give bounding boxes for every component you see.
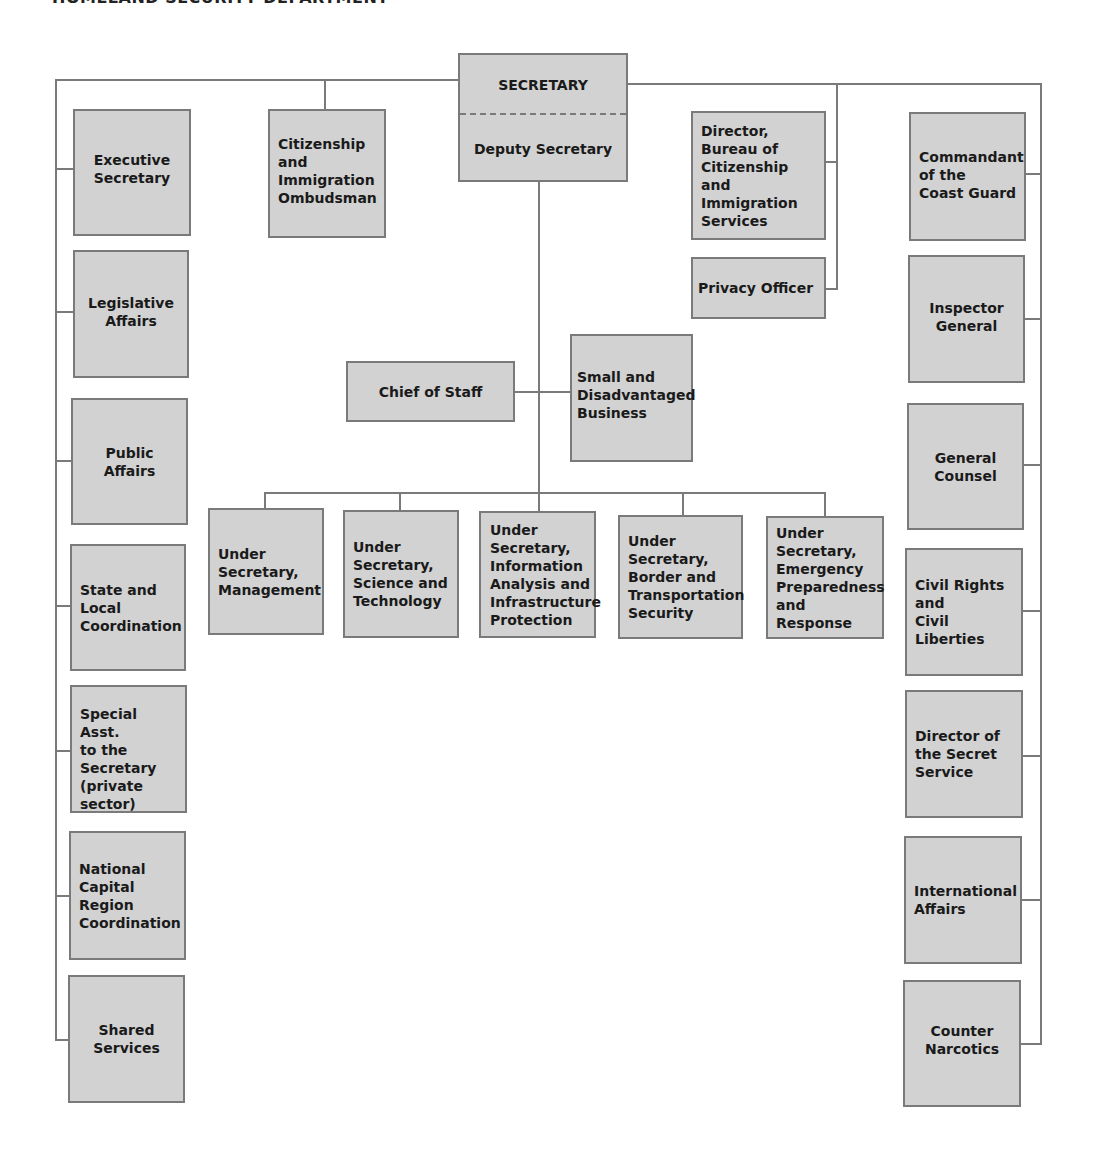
deputy-vertical-connector (538, 181, 540, 512)
special-assistant-box[interactable]: Special Asst. to the Secretary (private … (70, 685, 187, 813)
right-column-label: General Counsel (934, 449, 996, 485)
top-horizontal-connector-right (626, 83, 1042, 85)
chief-small-business-connector (513, 391, 571, 393)
under-secretary-label: Under Secretary, Management (218, 545, 321, 599)
chief-of-staff-label: Chief of Staff (379, 383, 483, 401)
under-secretary-emergency-box[interactable]: Under Secretary, Emergency Preparedness … (766, 516, 884, 639)
bcis-privacy-vertical-connector (836, 83, 838, 290)
right-column-label: Civil Rights and Civil Liberties (915, 576, 1013, 648)
shared-services-box[interactable]: Shared Services (68, 975, 185, 1103)
legislative-affairs-box[interactable]: Legislative Affairs (73, 250, 189, 378)
civil-rights-box[interactable]: Civil Rights and Civil Liberties (905, 548, 1023, 676)
secretary-box[interactable]: SECRETARY Deputy Secretary (458, 53, 628, 182)
under-secretary-information-box[interactable]: Under Secretary, Information Analysis an… (479, 511, 596, 638)
right-column-label: Director of the Secret Service (915, 727, 1000, 781)
left-column-label: Legislative Affairs (88, 294, 174, 330)
under-secretary-label: Under Secretary, Science and Technology (353, 538, 448, 610)
under-secretary-label: Under Secretary, Emergency Preparedness … (776, 524, 885, 632)
right-stub-7 (1020, 1043, 1041, 1045)
secret-service-box[interactable]: Director of the Secret Service (905, 690, 1023, 818)
right-column-label: Commandant of the Coast Guard (919, 148, 1024, 202)
small-business-box[interactable]: Small and Disadvantaged Business (570, 334, 693, 462)
secretary-deputy-divider (460, 113, 626, 115)
under-sec-drop-5 (824, 492, 826, 517)
coast-guard-box[interactable]: Commandant of the Coast Guard (909, 112, 1026, 241)
director-bcis-label: Director, Bureau of Citizenship and Immi… (701, 122, 816, 230)
ombudsman-label: Citizenship and Immigration Ombudsman (278, 135, 377, 207)
right-column-label: Inspector General (929, 299, 1004, 335)
right-stub-3 (1023, 464, 1041, 466)
state-local-coordination-box[interactable]: State and Local Coordination (70, 544, 186, 671)
under-secretary-border-box[interactable]: Under Secretary, Border and Transportati… (618, 515, 743, 639)
right-stub-2 (1024, 318, 1041, 320)
privacy-officer-box[interactable]: Privacy Officer (691, 257, 826, 319)
right-stub-5 (1022, 755, 1041, 757)
deputy-secretary-label: Deputy Secretary (460, 117, 626, 180)
right-stub-4 (1022, 610, 1041, 612)
under-sec-drop-1 (264, 492, 266, 509)
left-column-label: Special Asst. to the Secretary (private … (80, 705, 177, 813)
ombudsman-connector (324, 79, 326, 110)
public-affairs-box[interactable]: Public Affairs (71, 398, 188, 525)
left-column-label: Executive Secretary (94, 151, 170, 187)
right-column-label: Counter Narcotics (925, 1022, 999, 1058)
under-secretary-label: Under Secretary, Border and Transportati… (628, 532, 744, 622)
left-stub-2 (55, 311, 74, 313)
right-stub-6 (1021, 899, 1041, 901)
left-column-label: Shared Services (93, 1021, 160, 1057)
ombudsman-box[interactable]: Citizenship and Immigration Ombudsman (268, 109, 386, 238)
under-secretaries-horizontal-connector (264, 492, 826, 494)
under-secretary-management-box[interactable]: Under Secretary, Management (208, 508, 324, 635)
under-secretary-label: Under Secretary, Information Analysis an… (490, 521, 601, 629)
right-stub-1 (1025, 173, 1041, 175)
inspector-general-box[interactable]: Inspector General (908, 255, 1025, 383)
under-sec-drop-4 (682, 492, 684, 516)
top-horizontal-connector-left (55, 79, 459, 81)
national-capital-region-box[interactable]: National Capital Region Coordination (69, 831, 186, 960)
small-business-label: Small and Disadvantaged Business (577, 368, 695, 422)
general-counsel-box[interactable]: General Counsel (907, 403, 1024, 530)
chart-title: HOMELAND SECURITY DEPARTMENT (52, 0, 389, 7)
executive-secretary-box[interactable]: Executive Secretary (73, 109, 191, 236)
chief-of-staff-box[interactable]: Chief of Staff (346, 361, 515, 422)
right-column-label: International Affairs (914, 882, 1017, 918)
director-bcis-box[interactable]: Director, Bureau of Citizenship and Immi… (691, 111, 826, 240)
counter-narcotics-box[interactable]: Counter Narcotics (903, 980, 1021, 1107)
left-column-label: National Capital Region Coordination (79, 860, 181, 932)
privacy-officer-label: Privacy Officer (698, 279, 813, 297)
left-column-label: Public Affairs (104, 444, 156, 480)
under-sec-drop-2 (399, 492, 401, 511)
secretary-label: SECRETARY (460, 55, 626, 115)
left-stub-1 (55, 168, 74, 170)
international-affairs-box[interactable]: International Affairs (904, 836, 1022, 964)
left-column-label: State and Local Coordination (80, 581, 182, 635)
under-secretary-science-box[interactable]: Under Secretary, Science and Technology (343, 510, 459, 638)
